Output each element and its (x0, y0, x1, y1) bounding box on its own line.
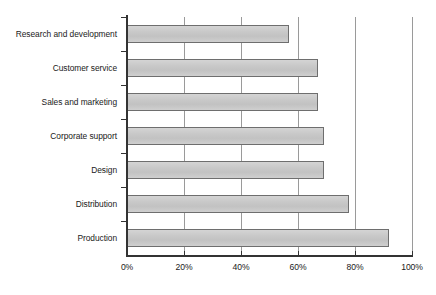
value-axis-labels: 0%20%40%60%80%100% (0, 262, 436, 278)
value-axis-label: 20% (164, 262, 204, 272)
category-label: Customer service (0, 63, 117, 73)
bar (127, 161, 324, 179)
category-label: Research and development (0, 29, 117, 39)
category-label: Corporate support (0, 131, 117, 141)
gridline (412, 17, 413, 255)
bar (127, 59, 318, 77)
category-tick (121, 85, 127, 86)
category-tick (121, 187, 127, 188)
value-tick (412, 251, 413, 256)
bar-chart: Research and developmentCustomer service… (0, 0, 436, 295)
category-tick (121, 221, 127, 222)
category-tick (121, 17, 127, 18)
category-tick (121, 119, 127, 120)
category-label: Production (0, 233, 117, 243)
value-axis-label: 80% (335, 262, 375, 272)
value-axis-label: 0% (107, 262, 147, 272)
bar (127, 93, 318, 111)
category-label: Design (0, 165, 117, 175)
category-tick (121, 51, 127, 52)
bar (127, 229, 389, 247)
category-label: Sales and marketing (0, 97, 117, 107)
category-label: Distribution (0, 199, 117, 209)
bar (127, 195, 349, 213)
value-axis-label: 100% (392, 262, 432, 272)
value-tick (127, 251, 128, 256)
category-tick (121, 153, 127, 154)
plot-area (127, 17, 412, 255)
category-axis-line (126, 255, 413, 257)
value-tick (298, 251, 299, 256)
gridline (355, 17, 356, 255)
value-tick (184, 251, 185, 256)
bar (127, 127, 324, 145)
value-axis-label: 60% (278, 262, 318, 272)
value-axis-label: 40% (221, 262, 261, 272)
value-tick (355, 251, 356, 256)
value-tick (241, 251, 242, 256)
category-axis: Research and developmentCustomer service… (0, 17, 122, 255)
bar (127, 25, 289, 43)
